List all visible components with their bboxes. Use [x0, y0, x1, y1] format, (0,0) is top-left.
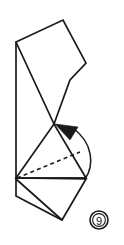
origami-diagram-root: 9: [0, 0, 124, 245]
origami-figure: 9: [0, 0, 124, 245]
upper-flap-polygon: [16, 20, 86, 124]
step-number-label: 9: [96, 215, 102, 227]
bottom-flap-polygon: [16, 178, 86, 220]
lower-triangle-face: [16, 124, 86, 178]
